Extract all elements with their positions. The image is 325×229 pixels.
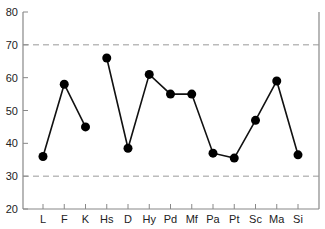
x-tick-label: Pt: [229, 213, 239, 225]
x-tick-label: Pa: [206, 213, 220, 225]
x-tick-label: Si: [293, 213, 303, 225]
data-point-Hy: [145, 70, 154, 79]
series-line: [43, 84, 86, 156]
x-tick-label: L: [40, 213, 46, 225]
data-point-Pd: [166, 90, 175, 99]
chart: 20304050607080 LFKHsDHyPdMfPaPtScMaSi: [0, 0, 325, 229]
reference-lines: [23, 45, 319, 176]
series-line: [107, 58, 298, 158]
y-tick-label: 40: [6, 137, 18, 149]
data-point-Mf: [187, 90, 196, 99]
data-point-Pa: [209, 149, 218, 158]
x-tick-label: F: [61, 213, 68, 225]
x-tick-label: Mf: [186, 213, 199, 225]
y-tick-label: 20: [6, 203, 18, 215]
data-point-F: [60, 80, 69, 89]
data-point-Pt: [230, 154, 239, 163]
x-axis-ticks: LFKHsDHyPdMfPaPtScMaSi: [40, 204, 303, 225]
data-series: [39, 53, 303, 162]
y-tick-label: 30: [6, 170, 18, 182]
y-axis-ticks: 20304050607080: [6, 6, 28, 215]
data-point-Si: [294, 150, 303, 159]
x-tick-label: Ma: [269, 213, 285, 225]
data-point-Ma: [272, 76, 281, 85]
axes: [23, 12, 319, 209]
x-tick-label: Hs: [100, 213, 114, 225]
y-tick-label: 80: [6, 6, 18, 18]
y-tick-label: 60: [6, 72, 18, 84]
x-tick-label: D: [124, 213, 132, 225]
y-tick-label: 50: [6, 105, 18, 117]
y-tick-label: 70: [6, 39, 18, 51]
data-point-Sc: [251, 116, 260, 125]
data-point-L: [39, 152, 48, 161]
x-tick-label: Pd: [164, 213, 177, 225]
data-point-D: [124, 144, 133, 153]
x-tick-label: Sc: [249, 213, 262, 225]
data-point-Hs: [102, 53, 111, 62]
data-point-K: [81, 122, 90, 131]
x-tick-label: K: [82, 213, 90, 225]
x-tick-label: Hy: [143, 213, 157, 225]
